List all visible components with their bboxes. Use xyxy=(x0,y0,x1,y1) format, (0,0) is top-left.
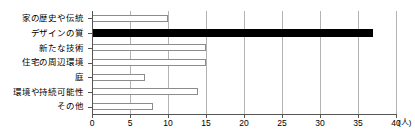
bar xyxy=(92,88,198,95)
category-label: 庭 xyxy=(0,70,88,85)
y-axis-tick xyxy=(88,92,92,93)
bar xyxy=(92,15,168,22)
bar-row xyxy=(92,70,396,85)
gridline xyxy=(396,11,397,114)
bar xyxy=(92,103,153,110)
x-axis-tick-label: 15 xyxy=(201,119,210,128)
bar xyxy=(92,74,145,81)
bar xyxy=(92,59,206,66)
category-label: 新たな技術 xyxy=(0,40,88,55)
y-axis-line xyxy=(92,11,93,114)
bar xyxy=(92,44,206,51)
y-axis-tick xyxy=(88,63,92,64)
y-axis-tick xyxy=(88,77,92,78)
y-axis-tick xyxy=(88,107,92,108)
y-axis-tick xyxy=(88,18,92,19)
x-axis-tick-label: 25 xyxy=(277,119,286,128)
x-axis-tick-label: 30 xyxy=(315,119,324,128)
category-label: その他 xyxy=(0,99,88,114)
category-label: デザインの質 xyxy=(0,26,88,41)
bar-row xyxy=(92,11,396,26)
x-axis-tick-labels: 0510152025303540 xyxy=(92,119,396,133)
bar-chart: 家の歴史や伝統 デザインの質 新たな技術 住宅の周辺環境 庭 環境や持続可能性 … xyxy=(0,0,415,139)
category-label: 家の歴史や伝統 xyxy=(0,11,88,26)
category-label: 環境や持続可能性 xyxy=(0,85,88,100)
y-axis-tick xyxy=(88,33,92,34)
bar xyxy=(92,29,373,37)
x-axis-tick-label: 0 xyxy=(90,119,95,128)
x-axis-tick-label: 20 xyxy=(239,119,248,128)
bar-row xyxy=(92,40,396,55)
bar-row xyxy=(92,26,396,41)
bars-layer xyxy=(92,11,396,114)
y-axis-category-labels: 家の歴史や伝統 デザインの質 新たな技術 住宅の周辺環境 庭 環境や持続可能性 … xyxy=(0,11,88,114)
bar-row xyxy=(92,99,396,114)
x-axis-tick-label: 5 xyxy=(128,119,133,128)
x-axis-tick-label: 10 xyxy=(163,119,172,128)
bar-row xyxy=(92,55,396,70)
x-axis-tick-label: 35 xyxy=(353,119,362,128)
x-axis-unit-label: (人) xyxy=(398,119,411,127)
category-label: 住宅の周辺環境 xyxy=(0,55,88,70)
plot-area xyxy=(92,11,396,114)
y-axis-tick xyxy=(88,48,92,49)
bar-row xyxy=(92,85,396,100)
